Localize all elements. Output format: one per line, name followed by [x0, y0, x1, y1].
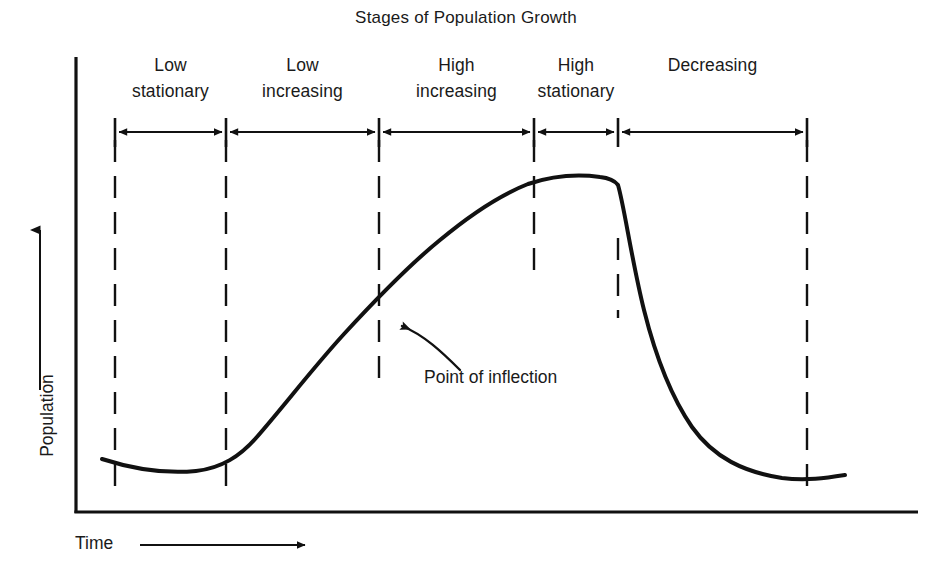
population-growth-curve — [102, 176, 845, 480]
population-growth-figure: Stages of Population Growth Low stationa… — [0, 0, 932, 573]
annotation-pointer-arrow — [402, 326, 460, 370]
chart-canvas — [0, 0, 932, 573]
